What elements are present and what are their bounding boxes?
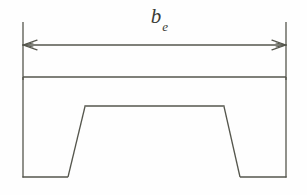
stiffener-web-left: [68, 107, 85, 178]
figure-root: be: [0, 0, 307, 195]
stiffener-web-right: [224, 107, 240, 178]
dimension-label-be: be: [129, 6, 189, 30]
dimension-label-base: b: [151, 4, 162, 28]
dimension-label-subscript: e: [162, 19, 168, 34]
